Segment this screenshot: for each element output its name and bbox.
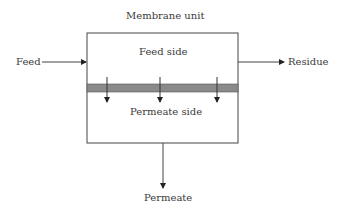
permeate-label: Permeate bbox=[144, 192, 192, 203]
feed-label: Feed bbox=[16, 56, 41, 67]
permeate-side-label: Permeate side bbox=[130, 106, 202, 117]
title-label: Membrane unit bbox=[126, 10, 204, 21]
membrane-diagram bbox=[0, 0, 338, 210]
membrane-layer bbox=[87, 84, 238, 92]
residue-label: Residue bbox=[288, 56, 329, 67]
feed-side-label: Feed side bbox=[139, 46, 187, 57]
